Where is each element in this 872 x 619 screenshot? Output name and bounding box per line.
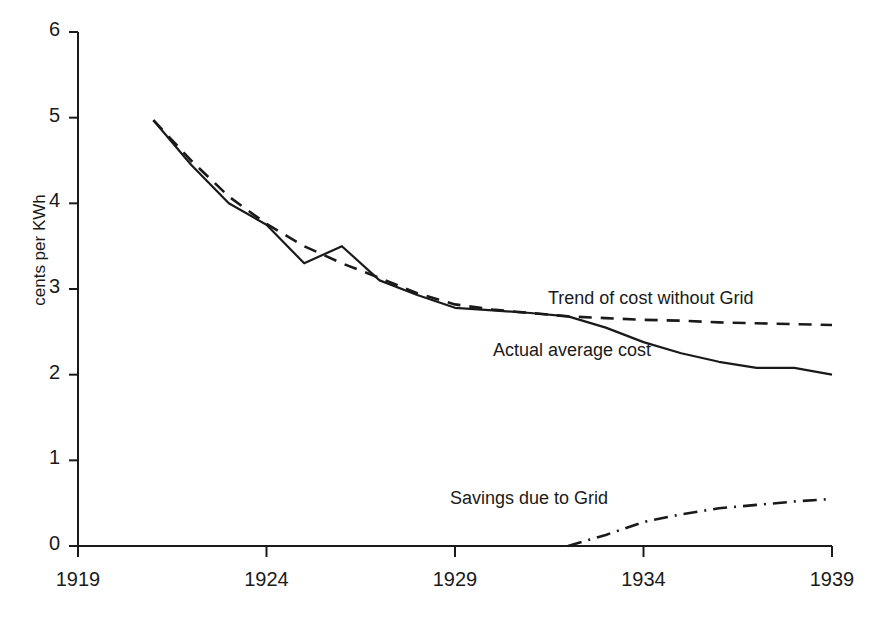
- y-tick-label: 6: [30, 18, 60, 41]
- y-tick-label: 3: [30, 275, 60, 298]
- x-axis-ticks: [78, 546, 832, 557]
- x-tick-label: 1919: [33, 568, 123, 591]
- y-tick-label: 0: [30, 532, 60, 555]
- annotation-actual-average-cost: Actual average cost: [493, 340, 651, 361]
- x-tick-label: 1929: [410, 568, 500, 591]
- y-tick-label: 2: [30, 361, 60, 384]
- annotation-trend-of-cost-without-grid: Trend of cost without Grid: [548, 288, 753, 309]
- x-tick-label: 1939: [787, 568, 872, 591]
- chart-plot-area: [0, 0, 872, 619]
- y-axis-title: cents per KWh: [30, 150, 50, 350]
- series-line-actual-average-cost: [153, 120, 832, 375]
- y-tick-label: 1: [30, 446, 60, 469]
- y-tick-label: 5: [30, 104, 60, 127]
- x-tick-label: 1924: [222, 568, 312, 591]
- y-axis-ticks: [69, 32, 78, 546]
- annotation-savings-due-to-grid: Savings due to Grid: [450, 488, 608, 509]
- y-tick-label: 4: [30, 189, 60, 212]
- chart-container: cents per KWh 0123456 191919241929193419…: [0, 0, 872, 619]
- x-tick-label: 1934: [599, 568, 689, 591]
